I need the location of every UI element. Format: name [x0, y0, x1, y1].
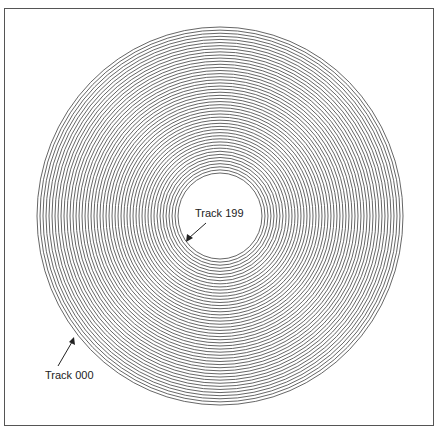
outer-track-label: Track 000 — [45, 369, 94, 381]
inner-track-callout: Track 199 — [186, 207, 244, 242]
inner-track-arrow-line — [189, 223, 206, 238]
inner-track-label: Track 199 — [195, 207, 244, 219]
outer-track-callout: Track 000 — [45, 337, 94, 381]
arrowhead-icon — [69, 337, 75, 345]
outer-track-arrow-line — [58, 342, 72, 366]
disk-diagram: Track 199 Track 000 — [0, 0, 443, 432]
